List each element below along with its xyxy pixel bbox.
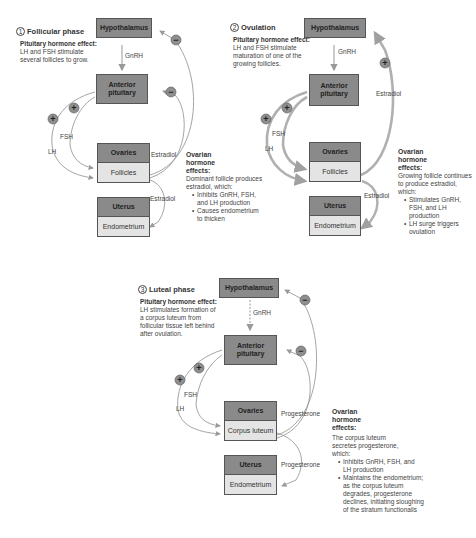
progesterone-label: Progesterone bbox=[281, 410, 320, 417]
effect-item: Stimulates GnRH, FSH, and LH production bbox=[404, 196, 476, 220]
ovarian-effects-intro: Growing follicle continues to produce es… bbox=[398, 172, 476, 196]
ovarian-effects-intro: The corpus luteum secretes progesterone,… bbox=[332, 434, 400, 458]
effect-item: Inhibits GnRH, FSH, and LH production bbox=[338, 458, 415, 474]
endometrium-box: Endometrium bbox=[224, 475, 277, 495]
ovarian-effects-title: Ovarian hormone effects: bbox=[398, 148, 438, 172]
estradiol-label: Estradiol bbox=[376, 90, 401, 97]
estradiol-label: Estradiol bbox=[150, 195, 175, 202]
svg-text:+: + bbox=[382, 58, 387, 68]
estradiol-label: Estradiol bbox=[364, 192, 389, 199]
svg-text:+: + bbox=[196, 363, 201, 373]
lh-label: LH bbox=[176, 405, 184, 412]
step-number: 1 bbox=[16, 27, 25, 36]
hypothalamus-box: Hypothalamus bbox=[96, 18, 152, 38]
lh-label: LH bbox=[48, 148, 56, 155]
uterus-box: Uterus bbox=[224, 455, 277, 475]
step-number: 2 bbox=[230, 23, 239, 32]
effect-item: Maintains the endometrium; as the corpus… bbox=[338, 474, 431, 514]
endometrium-box: Endometrium bbox=[97, 217, 150, 237]
uterus-box: Uterus bbox=[309, 196, 361, 216]
ovarian-effects-title: Ovarian hormone effects: bbox=[332, 408, 372, 432]
ovarian-effects: Ovarian hormone effects: The corpus lute… bbox=[332, 408, 432, 514]
fsh-label: FSH bbox=[184, 391, 197, 398]
fsh-label: FSH bbox=[272, 130, 285, 137]
step-number: 3 bbox=[138, 285, 147, 294]
svg-text:+: + bbox=[50, 114, 55, 124]
corpus-luteum-box: Corpus luteum bbox=[224, 421, 277, 441]
uterus-box: Uterus bbox=[97, 197, 150, 217]
fsh-label: FSH bbox=[60, 133, 73, 140]
ovarian-effects: Ovarian hormone effects: Growing follicl… bbox=[398, 148, 476, 236]
pituitary-effect: Pituitary hormone effect: LH and FSH sti… bbox=[233, 36, 313, 68]
svg-text:−: − bbox=[298, 346, 303, 356]
anterior-pituitary-box: Anterior pituitary bbox=[224, 335, 277, 365]
follicles-box: Follicles bbox=[97, 163, 150, 183]
phase-name: Ovulation bbox=[241, 23, 276, 32]
phase-name: Luteal phase bbox=[149, 285, 195, 294]
anterior-pituitary-box: Anterior pituitary bbox=[309, 74, 359, 106]
gnrh-label: GnRH bbox=[125, 52, 143, 59]
svg-text:+: + bbox=[71, 103, 76, 113]
effect-item: LH surge triggers ovulation bbox=[404, 220, 476, 236]
progesterone-label: Progesterone bbox=[281, 461, 320, 468]
effect-item: Causes endometrium to thicken bbox=[192, 207, 264, 223]
gnrh-label: GnRH bbox=[338, 48, 356, 55]
svg-text:+: + bbox=[263, 114, 268, 124]
ovarian-effects-intro: Dominant follicle produces estradiol, wh… bbox=[186, 175, 264, 191]
svg-text:−: − bbox=[168, 87, 173, 97]
endometrium-box: Endometrium bbox=[309, 216, 361, 236]
phase-name: Follicular phase bbox=[27, 27, 84, 36]
estradiol-label: Estradiol bbox=[151, 151, 176, 158]
pituitary-effect: Pituitary hormone effect: LH and FSH sti… bbox=[20, 40, 98, 64]
phase-title: 3 Luteal phase bbox=[138, 285, 195, 294]
ovarian-effects-list: Stimulates GnRH, FSH, and LH production … bbox=[398, 196, 476, 236]
svg-text:+: + bbox=[177, 375, 182, 385]
ovarian-effects-title: Ovarian hormone effects: bbox=[186, 151, 226, 175]
ovarian-effects-list: Inhibits GnRH, FSH, and LH production Ma… bbox=[332, 458, 432, 514]
ovaries-box: Ovaries bbox=[309, 142, 361, 162]
svg-text:−: − bbox=[302, 295, 307, 305]
phase-title: 2 Ovulation bbox=[230, 23, 276, 32]
phase-title: 1 Follicular phase bbox=[16, 27, 84, 36]
anterior-pituitary-box: Anterior pituitary bbox=[96, 74, 148, 104]
lh-label: LH bbox=[265, 145, 273, 152]
gnrh-label: GnRH bbox=[253, 309, 271, 316]
effect-item: Inhibits GnRH, FSH, and LH production bbox=[192, 191, 264, 207]
svg-text:+: + bbox=[284, 103, 289, 113]
ovarian-effects: Ovarian hormone effects: Dominant follic… bbox=[186, 151, 264, 223]
svg-text:−: − bbox=[173, 35, 178, 45]
ovarian-effects-list: Inhibits GnRH, FSH, and LH production Ca… bbox=[186, 191, 264, 223]
follicles-box: Follicles bbox=[309, 162, 361, 182]
hypothalamus-box: Hypothalamus bbox=[219, 278, 279, 298]
ovaries-box: Ovaries bbox=[224, 401, 277, 421]
ovaries-box: Ovaries bbox=[97, 143, 150, 163]
hypothalamus-box: Hypothalamus bbox=[304, 18, 366, 38]
pituitary-effect: Pituitary hormone effect: LH stimulates … bbox=[140, 298, 220, 338]
